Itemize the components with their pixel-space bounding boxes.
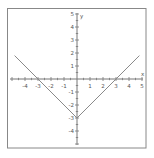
- y-tick-label: -4: [69, 128, 75, 134]
- y-tick-label: 2: [71, 50, 75, 56]
- x-tick-label: -4: [22, 83, 28, 89]
- x-tick-label: 3: [114, 83, 118, 89]
- x-tick-label: 4: [127, 83, 131, 89]
- y-tick-label: 5: [71, 11, 75, 17]
- y-tick-label: 4: [71, 24, 75, 30]
- y-tick-label: -1: [69, 89, 74, 95]
- x-tick-label: -1: [61, 83, 66, 89]
- x-tick-label: 5: [140, 83, 144, 89]
- y-tick-label: 3: [71, 37, 75, 43]
- x-tick-label: 2: [101, 83, 105, 89]
- graph-svg: -4-3-2-11234554321-1-2-3-4 x y: [0, 0, 154, 158]
- y-tick-label: -2: [69, 102, 74, 108]
- y-tick-label: -3: [69, 115, 75, 121]
- graph-plot: -4-3-2-11234554321-1-2-3-4 x y: [0, 0, 154, 158]
- x-tick-label: -2: [48, 83, 53, 89]
- x-tick-label: -3: [35, 83, 41, 89]
- y-tick-label: 1: [71, 63, 75, 69]
- x-tick-label: 1: [88, 83, 92, 89]
